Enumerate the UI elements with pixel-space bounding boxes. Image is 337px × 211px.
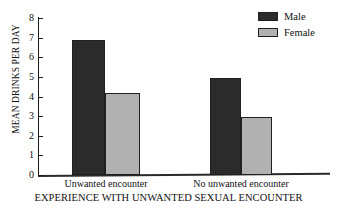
legend-item-male: Male	[258, 10, 315, 23]
y-axis-tick-label: 3	[4, 111, 34, 121]
x-axis-title: EXPERIENCE WITH UNWANTED SEXUAL ENCOUNTE…	[0, 192, 337, 203]
bar-female-group-2	[241, 117, 272, 175]
y-axis-tick-label: 8	[4, 13, 34, 23]
y-axis-tick-label: 6	[4, 52, 34, 62]
bar-female-group-1	[105, 93, 140, 175]
y-axis-tick-label: 4	[4, 92, 34, 102]
legend: Male Female	[258, 10, 315, 42]
legend-label-male: Male	[284, 11, 306, 22]
legend-label-female: Female	[284, 27, 315, 38]
x-axis-category-label: No unwanted encounter	[166, 178, 316, 190]
legend-swatch-female-icon	[258, 28, 278, 37]
bar-male-group-2	[210, 78, 241, 175]
bar-male-group-1	[72, 40, 105, 175]
legend-item-female: Female	[258, 26, 315, 39]
bar-chart: MEAN DRINKS PER DAY 012345678 Unwanted e…	[0, 0, 337, 211]
y-axis-tick	[38, 175, 43, 176]
y-axis-tick-label: 5	[4, 72, 34, 82]
y-axis-tick-label: 2	[4, 131, 34, 141]
legend-swatch-male-icon	[258, 12, 278, 21]
y-axis-tick-label: 0	[4, 170, 34, 180]
y-axis-tick-label: 7	[4, 33, 34, 43]
y-axis-tick-label: 1	[4, 150, 34, 160]
x-axis-category-label: Unwanted encounter	[31, 178, 181, 190]
